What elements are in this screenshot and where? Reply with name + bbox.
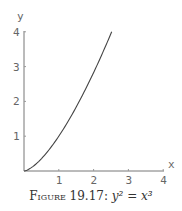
curve-y2-x3 [24,32,112,171]
x-tick-label: 3 [125,174,132,187]
x-tick-label: 1 [56,174,63,187]
y-tick-label: 3 [13,61,20,74]
y-tick-label: 4 [13,26,20,39]
caption-equation: y² = x³ [112,189,153,203]
plot-area: 12341234 x y [0,0,182,211]
x-tick-label: 4 [160,174,167,187]
axes [24,31,164,171]
y-tick-label: 1 [13,130,20,143]
x-axis-label: x [168,158,175,171]
caption-label: Figure 19.17: [29,189,108,203]
x-tick-label: 2 [91,174,98,187]
ticks: 12341234 [13,26,167,187]
y-axis-label: y [17,10,24,23]
y-tick-label: 2 [13,95,20,108]
figure-caption: Figure 19.17: y² = x³ [0,189,182,203]
